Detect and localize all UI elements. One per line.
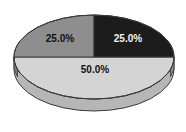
- pie-label-bottom: 50.0%: [70, 65, 120, 75]
- pie-label-top-left: 25.0%: [36, 34, 84, 44]
- pie-label-top-right: 25.0%: [104, 34, 152, 44]
- pie-chart: 25.0% 25.0% 50.0%: [0, 0, 186, 132]
